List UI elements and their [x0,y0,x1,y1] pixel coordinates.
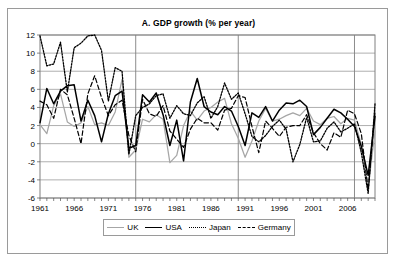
line-swatch-icon [107,224,124,231]
legend-entry-germany: Germany [238,223,291,232]
legend-entry-uk: UK [107,223,138,232]
y-tick-label: 8 [31,67,36,76]
x-tick-label: 1971 [99,204,117,213]
legend-entry-usa: USA [145,223,181,232]
y-tick-label: 6 [31,85,36,94]
chart-figure: A. GDP growth (% per year) 121086420-2-4… [0,0,397,262]
line-swatch-icon [238,224,255,231]
line-swatch-icon [189,224,206,231]
x-tick-label: 2006 [339,204,357,213]
legend-label-japan: Japan [209,223,231,232]
legend-label-uk: UK [127,223,138,232]
y-tick-label: 2 [31,122,36,131]
x-tick-label: 1981 [168,204,186,213]
x-tick-label: 2001 [305,204,323,213]
y-tick-label: 0 [31,140,36,149]
y-tick-label: 4 [31,103,36,112]
x-tick-label: 1961 [31,204,49,213]
x-tick-label: 1966 [65,204,83,213]
legend-label-germany: Germany [258,223,291,232]
legend-entry-japan: Japan [189,223,231,232]
y-tick-label: -6 [28,194,36,203]
y-tick-label: 12 [26,31,35,40]
y-tick-label: -4 [28,176,36,185]
x-tick-label: 1976 [134,204,152,213]
legend-label-usa: USA [165,223,181,232]
x-tick-label: 1996 [270,204,288,213]
line-swatch-icon [145,224,162,231]
y-tick-label: -2 [28,158,36,167]
chart-legend: UK USA Japan Germany [103,219,295,236]
x-tick-label: 1991 [236,204,254,213]
plot-background [40,35,375,198]
x-tick-label: 1986 [202,204,220,213]
y-tick-label: 10 [26,49,35,58]
